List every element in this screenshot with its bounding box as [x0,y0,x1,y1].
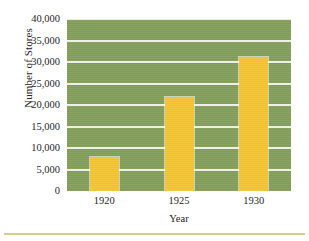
y-axis-tick-label: 5,000 [36,164,60,175]
x-axis-tick-label: 1925 [169,196,190,207]
y-axis-tick-labels: 05,00010,00015,00020,00025,00030,00035,0… [0,19,64,191]
bar [90,157,119,191]
x-axis-tick-label: 1930 [243,196,264,207]
y-axis-tick-label: 25,000 [31,78,60,89]
x-axis-tick-label: 1920 [94,196,115,207]
y-axis-tick-label: 40,000 [31,14,60,25]
bar-chart-figure: Number of Stores 05,00010,00015,00020,00… [0,0,309,241]
y-axis-tick-label: 30,000 [31,57,60,68]
plot-area [67,19,291,191]
bottom-divider-rule [4,233,305,235]
bar [239,57,268,191]
bar-texture [90,157,119,191]
bar-texture [239,57,268,191]
y-axis-tick-label: 0 [55,186,60,197]
x-axis-tick-labels: 192019251930 [67,196,291,212]
y-axis-tick-label: 15,000 [31,121,60,132]
bar [165,97,194,191]
gridline [67,40,291,42]
y-axis-tick-label: 20,000 [31,100,60,111]
y-axis-tick-label: 35,000 [31,35,60,46]
x-axis-title: Year [67,213,291,224]
bar-texture [165,97,194,191]
y-axis-tick-label: 10,000 [31,143,60,154]
gridline [67,19,291,20]
